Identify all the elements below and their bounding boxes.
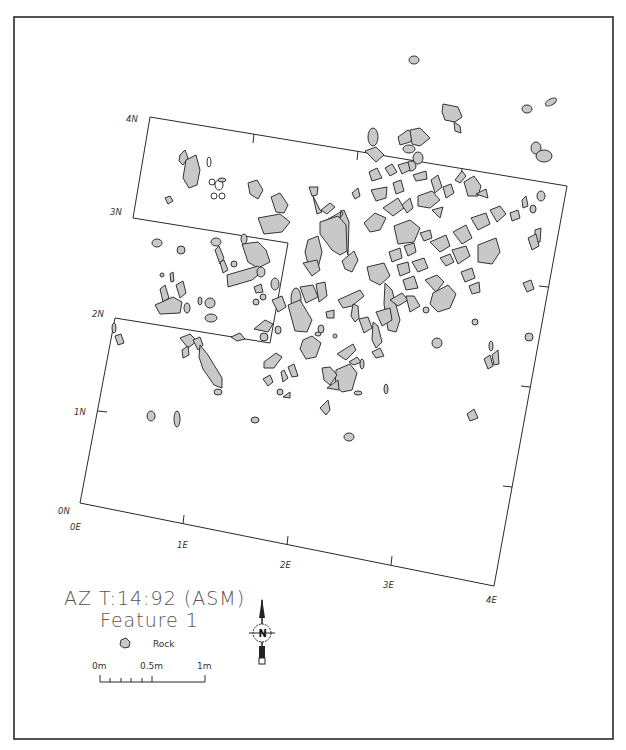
site-map: 4N 3N 2N 1N 0N 0E 1E 2E 3E 4E — [0, 0, 626, 750]
scale-label-0m: 0m — [92, 661, 107, 671]
label-4e: 4E — [486, 595, 497, 605]
label-2n: 2N — [92, 309, 104, 319]
label-0n: 0N — [58, 506, 70, 516]
label-3n: 3N — [110, 207, 122, 217]
title-feature: Feature 1 — [100, 609, 199, 631]
title-site-id: AZ T:14:92 (ASM) — [64, 587, 245, 609]
north-arrow-icon: N — [249, 598, 275, 664]
label-1n: 1N — [74, 407, 86, 417]
north-arrow-label: N — [259, 628, 267, 639]
map-title: AZ T:14:92 (ASM) Feature 1 — [64, 587, 245, 631]
legend-rock-swatch-icon — [120, 638, 130, 648]
scale-bar: 0m 0.5m 1m — [92, 661, 212, 682]
legend-rock-label: Rock — [153, 639, 175, 649]
legend: Rock — [120, 638, 175, 649]
scale-label-1m: 1m — [197, 661, 212, 671]
label-3e: 3E — [383, 580, 394, 590]
scale-label-half-m: 0.5m — [140, 661, 163, 671]
label-1e: 1E — [177, 540, 188, 550]
rock-features — [112, 56, 558, 441]
excavation-grid — [80, 117, 567, 586]
label-4n: 4N — [126, 114, 138, 124]
label-0e: 0E — [70, 522, 81, 532]
label-2e: 2E — [280, 560, 291, 570]
